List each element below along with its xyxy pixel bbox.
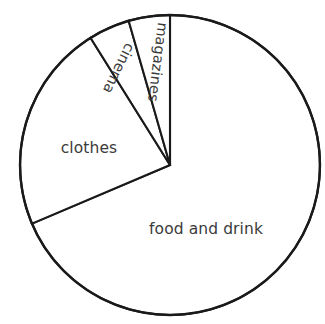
pie-label-food-and-drink: food and drink [149, 220, 263, 238]
pie-chart: food and drink clothes cinema magazines [0, 0, 325, 324]
pie-slices [20, 15, 320, 315]
pie-label-clothes: clothes [61, 139, 118, 157]
pie-chart-svg: food and drink clothes cinema magazines [0, 0, 325, 324]
